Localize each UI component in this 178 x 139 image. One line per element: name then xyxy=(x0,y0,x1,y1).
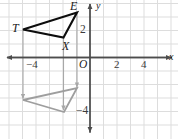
origin-label: O xyxy=(79,59,87,71)
vertex-label-t: T xyxy=(12,22,19,34)
vertex-label-x: X xyxy=(62,40,69,52)
x-tick-label--4: −4 xyxy=(26,59,38,70)
coordinate-plane-figure: T E X y x O −4 2 4 2 −4 xyxy=(0,0,178,139)
x-tick-label-2: 2 xyxy=(114,59,120,70)
x-axis-label: x xyxy=(169,52,173,62)
y-tick-label--4: −4 xyxy=(76,105,88,117)
y-axis-label: y xyxy=(96,1,100,11)
x-tick-label-4: 4 xyxy=(141,59,147,70)
vertex-label-e: E xyxy=(70,0,77,12)
y-tick-label-2: 2 xyxy=(80,24,86,36)
